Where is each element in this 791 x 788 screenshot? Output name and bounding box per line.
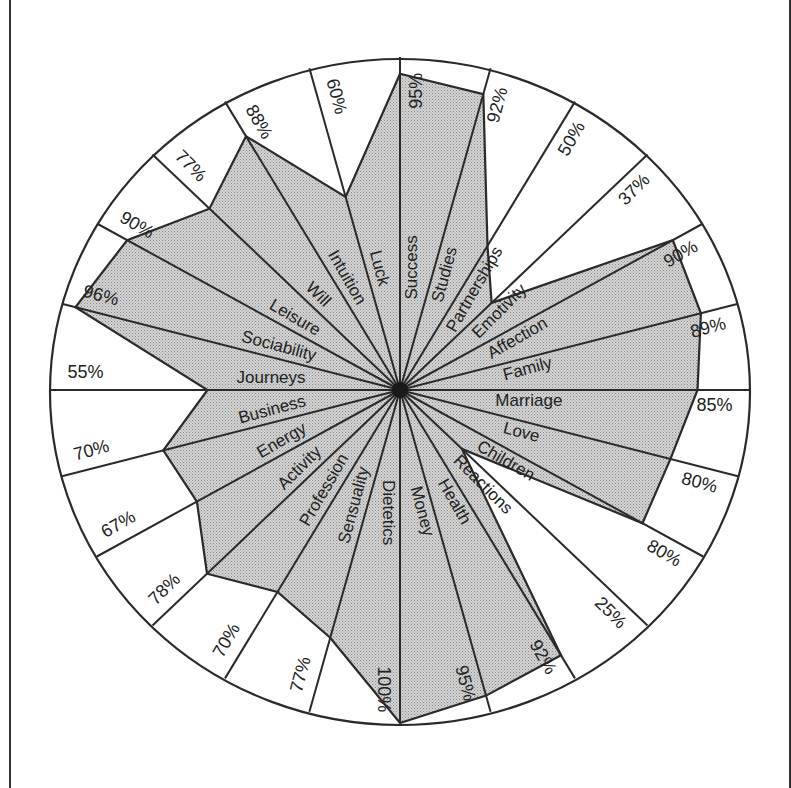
value-label-marriage: 85% xyxy=(696,395,732,415)
axis-label-dietetics: Dietetics xyxy=(379,480,398,545)
value-label-sensuality: 77% xyxy=(286,654,315,694)
value-label-journeys: 55% xyxy=(67,362,103,382)
value-label-business: 70% xyxy=(71,436,111,465)
value-label-activity: 78% xyxy=(144,569,184,609)
value-label-will: 77% xyxy=(171,146,211,186)
value-label-children: 80% xyxy=(644,535,685,570)
value-label-reactions: 25% xyxy=(591,593,631,633)
value-label-partnerships: 50% xyxy=(554,118,589,159)
value-label-luck: 60% xyxy=(322,76,351,116)
value-label-love: 80% xyxy=(680,468,720,497)
center-hub xyxy=(392,382,408,398)
axis-label-journeys: Journeys xyxy=(237,368,306,387)
axis-label-marriage: Marriage xyxy=(495,391,562,410)
axis-label-success: Success xyxy=(402,235,421,299)
value-label-success: 95% xyxy=(406,73,426,109)
value-label-studies: 92% xyxy=(483,85,512,125)
value-label-emotivity: 37% xyxy=(614,170,654,210)
value-label-dietetics: 100% xyxy=(374,666,394,712)
